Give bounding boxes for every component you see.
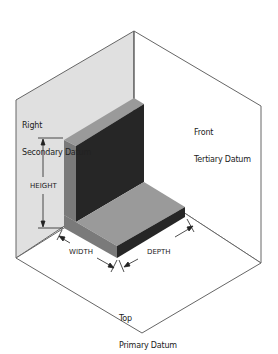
top-datum-label: Top Primary Datum bbox=[119, 296, 177, 354]
right-datum-label: Right Secondary Datum bbox=[22, 103, 91, 175]
front-label-line1: Front bbox=[194, 128, 251, 137]
width-label: WIDTH bbox=[69, 248, 93, 257]
top-label-line2: Primary Datum bbox=[119, 341, 177, 350]
height-label: HEIGHT bbox=[30, 182, 57, 191]
front-label-line2: Tertiary Datum bbox=[194, 155, 251, 164]
right-label-line1: Right bbox=[22, 121, 91, 130]
top-label-line1: Top bbox=[119, 314, 177, 323]
right-label-line2: Secondary Datum bbox=[22, 148, 91, 157]
depth-label: DEPTH bbox=[147, 248, 171, 257]
front-datum-label: Front Tertiary Datum bbox=[194, 110, 251, 182]
